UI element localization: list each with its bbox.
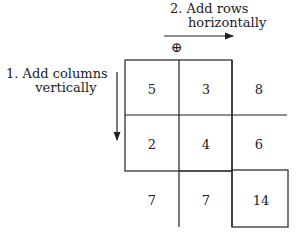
col1-sum: 7 bbox=[132, 193, 172, 208]
step2-label-line1: 2. Add rows bbox=[170, 2, 266, 16]
step2-label: 2. Add rows horizontally bbox=[170, 2, 266, 30]
cell-r2c2: 4 bbox=[186, 137, 226, 152]
row2-sum: 6 bbox=[239, 137, 279, 152]
row1-sum: 8 bbox=[239, 82, 279, 97]
grand-total: 14 bbox=[241, 193, 281, 208]
step1-label: 1. Add columns vertically bbox=[6, 67, 108, 95]
plus-icon: ⊕ bbox=[171, 40, 183, 54]
cell-r1c2: 3 bbox=[186, 82, 226, 97]
step1-label-line1: 1. Add columns bbox=[6, 67, 108, 81]
step1-label-line2: vertically bbox=[6, 81, 108, 95]
step2-label-line2: horizontally bbox=[170, 16, 266, 30]
cell-r1c1: 5 bbox=[132, 82, 172, 97]
cell-r2c1: 2 bbox=[132, 137, 172, 152]
col2-sum: 7 bbox=[186, 193, 226, 208]
